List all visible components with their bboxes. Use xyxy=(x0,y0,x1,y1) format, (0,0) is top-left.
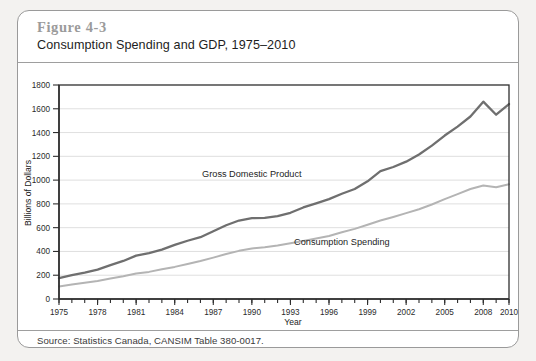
figure-header: Figure 4-3 Consumption Spending and GDP,… xyxy=(18,11,518,63)
y-tick-label: 1600 xyxy=(32,105,51,114)
x-tick-label: 1981 xyxy=(127,308,146,317)
y-axis-title: Billions of Dollars xyxy=(23,160,33,226)
figure-number: Figure 4-3 xyxy=(37,19,518,36)
gridlines xyxy=(59,109,509,275)
source-note: Source: Statistics Canada, CANSIM Table … xyxy=(37,335,264,346)
y-tick-label: 1200 xyxy=(32,152,51,161)
x-tick-label: 2010 xyxy=(500,308,518,317)
plot-frame xyxy=(59,85,509,299)
figure-page: Figure 4-3 Consumption Spending and GDP,… xyxy=(0,0,536,361)
series-label-consumption-spending: Consumption Spending xyxy=(294,237,390,247)
x-tick-label: 1987 xyxy=(204,308,223,317)
y-axis-ticks: 020040060080010001200140016001800 xyxy=(32,81,59,304)
y-tick-label: 800 xyxy=(36,200,50,209)
x-tick-label: 1990 xyxy=(243,308,262,317)
y-tick-label: 1000 xyxy=(32,176,51,185)
plot-border xyxy=(59,85,509,299)
x-tick-label: 1978 xyxy=(88,308,107,317)
y-tick-label: 1800 xyxy=(32,81,51,90)
series-label-gross-domestic-product: Gross Domestic Product xyxy=(202,169,302,179)
x-tick-label: 2005 xyxy=(436,308,455,317)
chart-plot-region: 020040060080010001200140016001800 197519… xyxy=(18,63,518,331)
x-tick-label: 2008 xyxy=(474,308,493,317)
figure-card: Figure 4-3 Consumption Spending and GDP,… xyxy=(17,10,519,348)
y-tick-label: 200 xyxy=(36,271,50,280)
x-tick-label: 1984 xyxy=(166,308,185,317)
x-tick-label: 2002 xyxy=(397,308,416,317)
data-series xyxy=(59,102,509,287)
line-chart: 020040060080010001200140016001800 197519… xyxy=(18,63,518,331)
y-tick-label: 600 xyxy=(36,224,50,233)
series-line-consumption-spending xyxy=(59,184,509,286)
x-tick-label: 1993 xyxy=(281,308,300,317)
y-tick-label: 1400 xyxy=(32,129,51,138)
y-tick-label: 400 xyxy=(36,247,50,256)
y-tick-label: 0 xyxy=(45,295,50,304)
x-tick-label: 1975 xyxy=(50,308,69,317)
x-axis-ticks: 1975197819811984198719901993199619992002… xyxy=(50,299,518,317)
figure-title: Consumption Spending and GDP, 1975–2010 xyxy=(37,36,518,55)
x-tick-label: 1999 xyxy=(358,308,377,317)
x-tick-label: 1996 xyxy=(320,308,339,317)
x-axis-title: Year xyxy=(284,317,302,327)
